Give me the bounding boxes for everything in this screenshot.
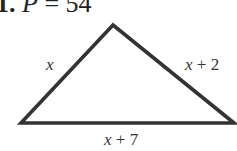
side-right-expression: + 2 xyxy=(193,55,220,74)
side-bottom-expression: + 7 xyxy=(112,130,139,149)
triangle-shape xyxy=(21,25,234,123)
side-label-right: x + 2 xyxy=(185,56,219,74)
side-label-bottom: x + 7 xyxy=(104,131,138,149)
triangle-diagram xyxy=(0,0,237,151)
side-right-variable: x xyxy=(185,55,193,74)
side-left-variable: x xyxy=(46,55,54,74)
side-label-left: x xyxy=(46,56,54,74)
side-bottom-variable: x xyxy=(104,130,112,149)
